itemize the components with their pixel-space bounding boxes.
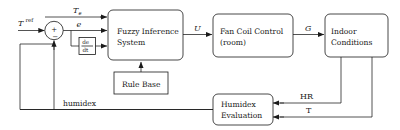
block-humidex-evaluation: [213, 94, 273, 125]
reference-signal-superscript: ref: [26, 17, 35, 23]
block-diagram-canvas: T ref + − T e e de dt Fuzzy Inference Sy…: [0, 0, 400, 130]
control-signal-text: U: [194, 24, 201, 33]
reference-signal-text: T: [18, 19, 24, 28]
humidex-feedback-text: humidex: [63, 99, 97, 108]
derivative-denominator-text: dt: [83, 47, 90, 53]
wire-t-feedback: [273, 57, 372, 117]
rulebase-label-line1: Rule Base: [122, 80, 161, 89]
indoor-label-line1: Indoor: [331, 27, 357, 36]
indoor-label-line2: Conditions: [331, 38, 373, 47]
humidex-label-line1: Humidex: [221, 100, 256, 109]
error-signal-text: e: [77, 20, 82, 29]
outdoor-temp-subscript: e: [79, 10, 82, 16]
label-outdoor-temp-signal: T e: [73, 6, 82, 16]
temperature-feedback-text: T: [306, 106, 312, 115]
plant-output-text: G: [305, 24, 312, 33]
fancoil-label-line1: Fan Coil Control: [220, 27, 284, 36]
fis-label-line1: Fuzzy Inference: [117, 27, 179, 36]
sum-minus-sign: −: [52, 33, 58, 41]
block-fan-coil-control: [213, 14, 293, 57]
relative-humidity-text: HR: [300, 92, 314, 101]
fis-label-line2: System: [117, 38, 145, 47]
fancoil-label-line2: (room): [220, 38, 246, 47]
humidex-label-line2: Evaluation: [221, 111, 262, 120]
block-indoor-conditions: [325, 14, 388, 57]
wire-error-branch-to-derivative: [71, 31, 79, 47]
label-reference-signal: T ref: [18, 17, 34, 28]
derivative-numerator-text: de: [82, 39, 90, 45]
